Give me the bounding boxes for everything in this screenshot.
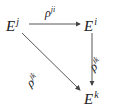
node-e-j: Ej <box>6 17 19 34</box>
label-rho-ji: ρji <box>45 6 55 19</box>
node-e-i-base: E <box>84 18 93 34</box>
label-rho-ji-sup: ji <box>51 5 55 14</box>
node-e-k: Ek <box>84 90 99 107</box>
node-e-i: Ei <box>84 17 97 34</box>
node-e-j-sup: j <box>16 16 19 27</box>
node-e-k-sup: k <box>94 89 98 100</box>
node-e-i-sup: i <box>94 16 97 27</box>
node-e-k-base: E <box>84 91 93 107</box>
node-e-j-base: E <box>6 18 15 34</box>
